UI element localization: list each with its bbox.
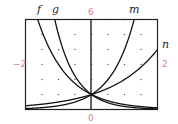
label-xmax: 2 bbox=[162, 59, 168, 69]
label-xmin: −2 bbox=[13, 59, 26, 69]
label-ymax: 6 bbox=[88, 7, 94, 17]
label-ymin: 0 bbox=[88, 113, 94, 123]
label-f: f bbox=[37, 5, 41, 15]
curve-f bbox=[38, 19, 158, 107]
label-n: n bbox=[162, 40, 169, 50]
label-m: m bbox=[129, 5, 139, 15]
curve-g bbox=[55, 20, 158, 109]
graph-plot bbox=[0, 0, 178, 124]
label-g: g bbox=[52, 5, 59, 15]
